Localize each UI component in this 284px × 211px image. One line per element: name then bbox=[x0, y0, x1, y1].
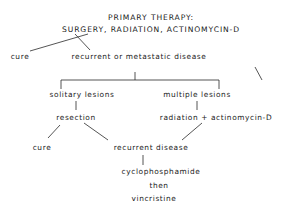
edge-split-bracket bbox=[61, 80, 219, 89]
node-cure-top: cure bbox=[11, 53, 30, 60]
edge-resection-to-cure bbox=[48, 125, 60, 138]
edge-primary-to-recurrent-metastatic bbox=[75, 34, 90, 50]
edge-primary-to-cure bbox=[30, 34, 88, 51]
node-solitary-lesions: solitary lesions bbox=[50, 91, 115, 98]
node-cyclophosphamide: cyclophosphamide bbox=[122, 168, 201, 175]
node-cure-bottom: cure bbox=[33, 144, 52, 151]
node-resection: resection bbox=[56, 114, 95, 121]
node-recurrent-disease: recurrent disease bbox=[114, 144, 189, 151]
node-multiple-lesions: multiple lesions bbox=[163, 91, 231, 98]
node-radiation-actinomycin: radiation + actinomycin-D bbox=[160, 114, 272, 121]
node-then: then bbox=[149, 182, 168, 189]
stray-mark bbox=[255, 67, 262, 80]
treatment-flowchart: PRIMARY THERAPY: SURGERY, RADIATION, ACT… bbox=[0, 0, 284, 211]
primary-therapy-heading: PRIMARY THERAPY: bbox=[108, 14, 194, 22]
node-vincristine: vincristine bbox=[132, 195, 177, 202]
edge-resection-to-recurrent bbox=[84, 123, 108, 140]
node-recurrent-or-metastatic: recurrent or metastatic disease bbox=[72, 53, 207, 60]
primary-therapy-subheading: SURGERY, RADIATION, ACTINOMYCIN-D bbox=[62, 26, 240, 34]
edge-radiation-to-recurrent bbox=[182, 123, 202, 140]
